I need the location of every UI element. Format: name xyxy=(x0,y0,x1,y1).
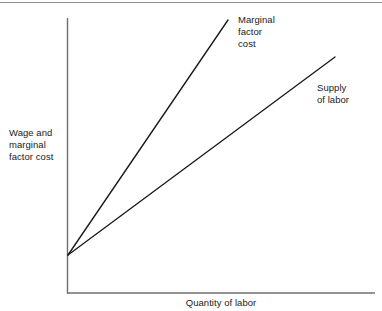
y-axis-label: Wage and marginal factor cost xyxy=(9,127,67,164)
series-line-marginal-factor-cost xyxy=(68,20,228,255)
figure-container: Marginal factor cost Supply of labor Wag… xyxy=(0,0,382,311)
series-annotation-marginal-factor-cost: Marginal factor cost xyxy=(238,14,275,51)
series-annotation-supply-of-labor: Supply of labor xyxy=(317,82,349,106)
series-line-supply-of-labor xyxy=(68,57,335,255)
x-axis-label: Quantity of labor xyxy=(67,297,375,309)
